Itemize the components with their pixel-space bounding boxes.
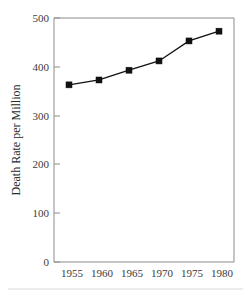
x-tick-label-1975: 1975 — [181, 267, 204, 279]
data-point-1970 — [156, 58, 162, 64]
y-axis-ticks — [54, 18, 60, 262]
y-axis-title: Death Rate per Million — [9, 85, 23, 196]
y-tick-label-400: 400 — [33, 61, 50, 73]
y-tick-label-0: 0 — [44, 256, 50, 268]
x-tick-label-1970: 1970 — [151, 267, 174, 279]
data-point-1980 — [216, 28, 222, 34]
plot-frame — [54, 18, 234, 262]
y-tick-label-300: 300 — [33, 110, 50, 122]
data-series-markers — [66, 28, 222, 88]
data-point-1965 — [126, 67, 132, 73]
x-tick-label-1960: 1960 — [91, 267, 114, 279]
line-chart: 500 400 300 200 100 0 1955 1960 1965 197… — [0, 0, 251, 295]
x-tick-label-1980: 1980 — [211, 267, 234, 279]
data-point-1955 — [66, 82, 72, 88]
chart-page: 500 400 300 200 100 0 1955 1960 1965 197… — [0, 0, 251, 295]
x-tick-label-1965: 1965 — [121, 267, 144, 279]
data-series-line — [69, 31, 219, 85]
y-tick-label-200: 200 — [33, 158, 50, 170]
y-tick-label-500: 500 — [33, 12, 50, 24]
data-point-1960 — [96, 77, 102, 83]
data-point-1975 — [186, 38, 192, 44]
y-tick-label-100: 100 — [33, 207, 50, 219]
x-tick-label-1955: 1955 — [61, 267, 84, 279]
